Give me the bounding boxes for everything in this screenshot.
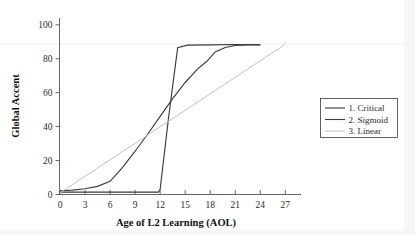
x-tick-label: 21 [230,200,240,210]
chart-legend: 1. Critical2. Sigmoid3. Linear [321,99,398,138]
x-axis-title: Age of L2 Learning (AOL) [116,217,237,229]
x-axis-ticks: 0369121518212427 [58,190,291,210]
data-series-group [60,44,285,192]
x-tick-label: 15 [180,200,190,210]
y-tick-label: 0 [48,190,53,200]
legend-label: 3. Linear [349,126,381,136]
y-tick-label: 80 [43,54,53,64]
y-tick-label: 20 [43,156,53,166]
y-tick-label: 60 [43,88,53,98]
legend-label: 1. Critical [349,103,385,113]
series-line [60,45,260,191]
series-line [60,44,260,192]
y-axis-title: Global Accent [10,74,21,138]
series-line [60,44,285,192]
chart-figure: 020406080100 0369121518212427 Age of L2 … [0,0,415,235]
x-tick-label: 9 [133,200,138,210]
y-tick-label: 40 [43,122,53,132]
legend-items: 1. Critical2. Sigmoid3. Linear [325,103,389,136]
y-axis-ticks: 020406080100 [38,20,59,200]
legend-label: 2. Sigmoid [349,115,389,125]
x-tick-label: 0 [58,200,63,210]
x-tick-label: 6 [108,200,113,210]
x-tick-label: 18 [205,200,215,210]
x-tick-label: 27 [281,200,291,210]
x-tick-label: 12 [155,200,165,210]
chart-canvas: 020406080100 0369121518212427 Age of L2 … [0,0,415,235]
x-tick-label: 3 [83,200,88,210]
y-tick-label: 100 [38,20,53,30]
x-tick-label: 24 [256,200,266,210]
